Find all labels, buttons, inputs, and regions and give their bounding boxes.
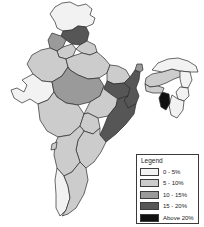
legend-swatch-icon	[140, 191, 159, 199]
legend-item: 0 - 5%	[140, 166, 195, 177]
legend-item: 5 - 10%	[140, 178, 195, 189]
legend-item: 10 - 15%	[140, 189, 195, 200]
india-choropleth-map-figure: Legend 0 - 5% 5 - 10% 10 - 15% 15 - 20% …	[0, 0, 204, 227]
legend: Legend 0 - 5% 5 - 10% 10 - 15% 15 - 20% …	[136, 154, 199, 224]
map-region-arunachal-pradesh	[152, 58, 198, 72]
map-region-jammu-kashmir	[50, 2, 95, 31]
map-region-goa	[51, 142, 57, 150]
legend-item: 15 - 20%	[140, 201, 195, 212]
map-region-nagaland	[180, 71, 192, 88]
legend-item-label: 0 - 5%	[163, 168, 180, 176]
legend-swatch-icon	[140, 168, 159, 176]
legend-swatch-icon	[140, 214, 159, 222]
legend-swatch-icon	[140, 179, 159, 187]
legend-title: Legend	[141, 157, 195, 165]
map-region-sikkim	[135, 64, 143, 72]
legend-item-label: Above 20%	[163, 214, 194, 222]
map-region-tripura	[159, 92, 170, 110]
legend-item-label: 10 - 15%	[163, 191, 187, 199]
legend-item-label: 5 - 10%	[163, 179, 184, 187]
legend-item-label: 15 - 20%	[163, 202, 187, 210]
legend-swatch-icon	[140, 202, 159, 210]
legend-item: Above 20%	[140, 212, 195, 223]
